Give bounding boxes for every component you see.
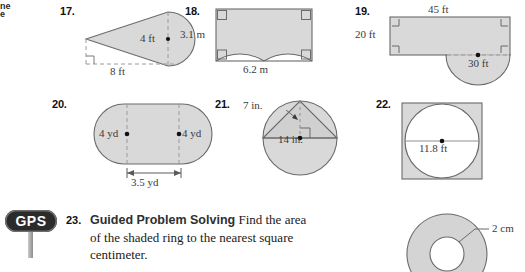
gps-badge-label: GPS (15, 213, 46, 229)
center-dot-20-left (125, 132, 130, 137)
problem-number-17: 17. (60, 5, 75, 17)
label-20-middle: 3.5 yd (131, 176, 159, 188)
problem-number-20: 20. (52, 98, 67, 110)
figure-19 (390, 17, 510, 85)
figure-18-svg (216, 9, 312, 61)
gps-badge-stem (28, 232, 33, 258)
gps-badge-pill: GPS (5, 210, 57, 232)
problem-number-23: 23. (66, 214, 81, 226)
problem-23-title: Guided Problem Solving (90, 213, 235, 227)
problem-23-paragraph: Guided Problem Solving Find the area of … (90, 211, 320, 263)
label-21-diameter: 14 in. (278, 133, 303, 145)
label-20-left-radius: 4 yd (99, 127, 118, 139)
figure-18 (216, 9, 312, 61)
figure-23-ring (405, 212, 490, 272)
arrowhead-right-20 (174, 170, 181, 176)
center-dot-17 (166, 37, 170, 41)
label-17-radius: 4 ft (140, 32, 155, 44)
gps-badge: GPS (5, 210, 57, 258)
label-18-width: 6.2 m (243, 63, 268, 75)
figure-19-svg (390, 17, 510, 85)
label-18-height: 3.1 m (180, 28, 205, 40)
label-19-left: 20 ft (355, 28, 375, 40)
problem-number-21: 21. (215, 98, 230, 110)
figure-22-svg (402, 103, 482, 179)
ring-inner-23 (430, 237, 464, 271)
label-23-ring: 2 cm (492, 222, 514, 234)
label-20-right-radius: 4 yd (182, 127, 201, 139)
page-margin-stub: nee (0, 2, 11, 18)
figure-22 (402, 103, 482, 179)
label-17-base: 8 ft (110, 65, 125, 77)
shape-19-rect (390, 17, 510, 55)
right-angle-mark-17 (86, 56, 94, 64)
shape-18-shaded (216, 9, 312, 61)
label-22-diameter: 11.8 ft (419, 142, 447, 154)
label-19-diameter: 30 ft (468, 57, 488, 69)
figure-23-ring-svg (405, 212, 490, 272)
center-dot-20-right (177, 132, 182, 137)
problem-23-text-block: Guided Problem Solving Find the area of … (90, 211, 320, 263)
label-21-height: 7 in. (243, 99, 263, 111)
problem-number-22: 22. (376, 98, 391, 110)
label-19-top: 45 ft (428, 3, 448, 15)
problem-number-19: 19. (355, 5, 370, 17)
problem-number-18: 18. (185, 5, 200, 17)
